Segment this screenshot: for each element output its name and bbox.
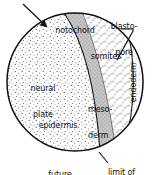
label-mesoderm-line2: derm: [88, 132, 122, 141]
label-neural-plate-line1: neural: [19, 85, 67, 94]
label-limit-of-invagination: limit of invagination: [108, 152, 160, 175]
label-blastopore: blasto- pore: [96, 6, 152, 74]
label-future-anterior-end: future anterior end: [22, 154, 98, 175]
label-future-anterior-end-line1: future: [22, 171, 98, 175]
label-mesoderm-line1: meso-: [88, 106, 122, 115]
label-epidermis: epidermis: [28, 122, 88, 131]
label-blastopore-line1: blasto-: [96, 23, 152, 32]
fate-map-figure: blasto- pore notochord somites endoderm …: [0, 0, 160, 175]
label-somites: somites: [82, 53, 130, 62]
dorsal-lip-arrow-icon: [23, 4, 47, 27]
label-mesoderm: meso- derm: [88, 89, 122, 157]
label-notochord: notochord: [46, 27, 104, 36]
label-neural-plate-line2: plate: [19, 111, 67, 120]
label-limit-of-invagination-line1: limit of: [108, 169, 160, 175]
label-endoderm: endoderm: [130, 54, 139, 110]
